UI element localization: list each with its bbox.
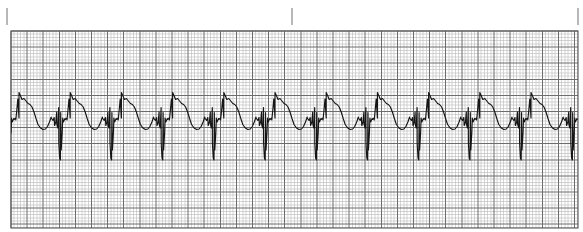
ecg-canvas [0, 0, 583, 232]
ecg-strip-container [0, 0, 583, 232]
